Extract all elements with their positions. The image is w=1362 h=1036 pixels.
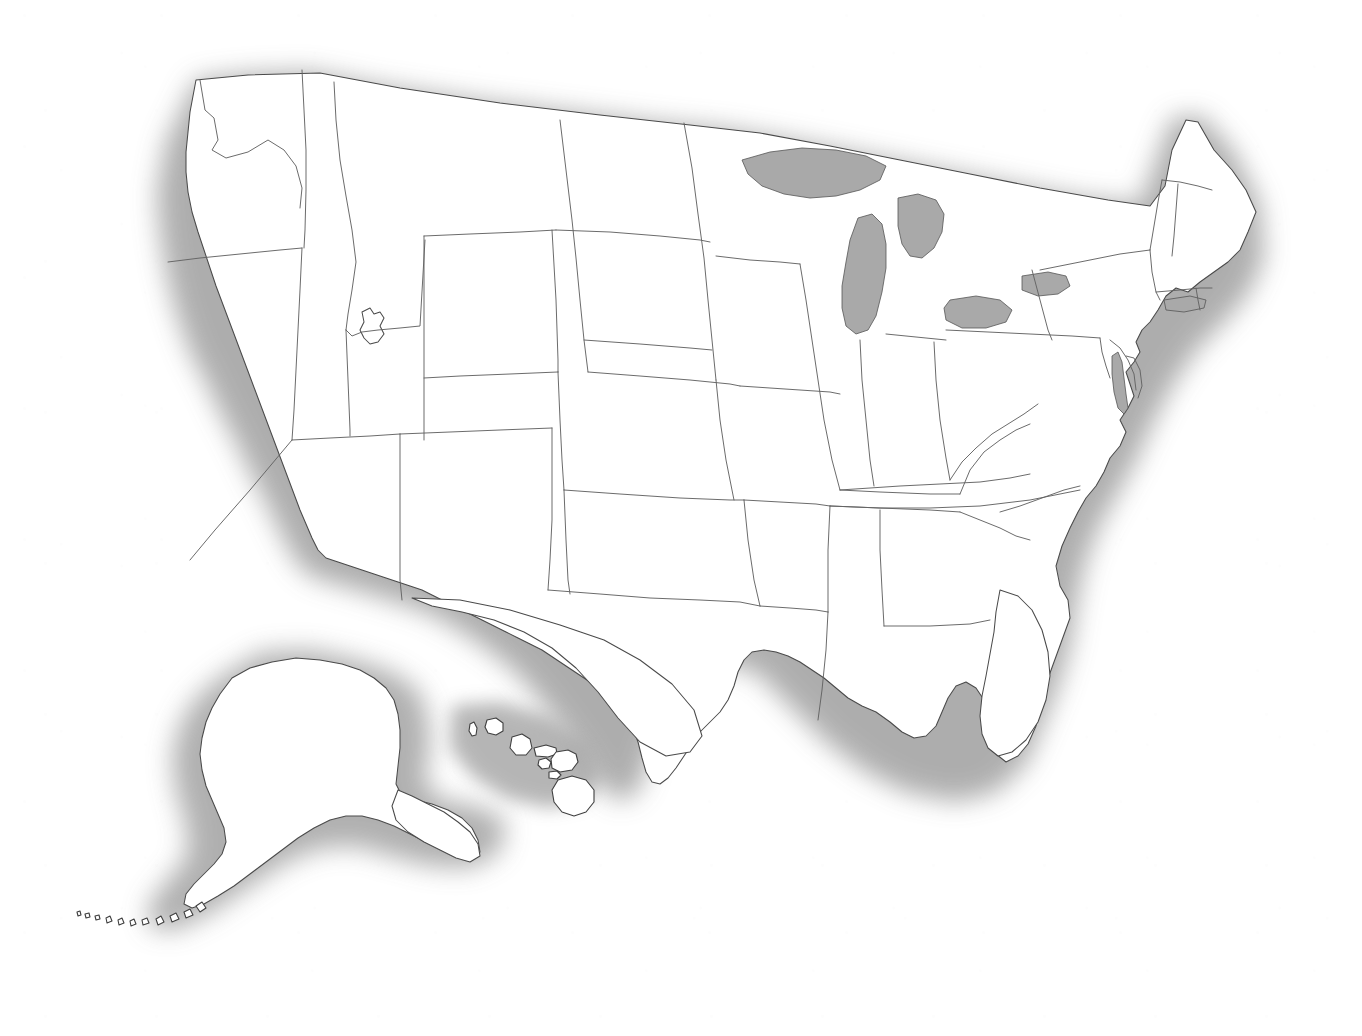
map-page [0, 0, 1362, 1036]
island-hawaii [552, 776, 594, 816]
us-blank-outline-map [0, 0, 1362, 1036]
island-kauai [485, 718, 503, 735]
alaska-mainland [184, 658, 480, 908]
